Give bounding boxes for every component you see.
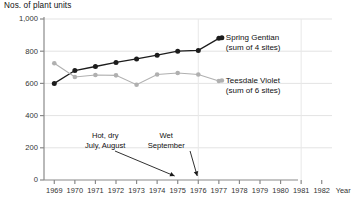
data-point-0-1971 bbox=[93, 64, 98, 69]
data-point-1-1971 bbox=[93, 73, 98, 78]
series-line-1 bbox=[54, 63, 219, 84]
legend-spring-gentian-sublabel: (sum of 4 sites) bbox=[226, 43, 281, 52]
annotation-wet-september: Wet September bbox=[148, 131, 185, 150]
x-axis-title: Year bbox=[336, 186, 351, 195]
annotation-wet-september-line1: Wet bbox=[160, 131, 173, 140]
data-point-1-1974 bbox=[155, 72, 160, 77]
legend-spring-gentian-name: Spring Gentian bbox=[226, 33, 279, 42]
data-point-1-1975 bbox=[175, 71, 180, 76]
legend-teesdale-violet-sublabel: (sum of 6 sites) bbox=[226, 86, 281, 95]
data-point-1-1973 bbox=[134, 82, 139, 87]
annotation-arrow-hot-dry bbox=[115, 151, 175, 176]
data-point-0-1976 bbox=[196, 48, 201, 53]
annotation-hot-dry: Hot, dry July, August bbox=[85, 131, 125, 150]
y-tick-label-1000: 1,000 bbox=[8, 14, 38, 23]
data-point-1-1976 bbox=[196, 72, 201, 77]
legend-teesdale-violet: Teesdale Violet (sum of 6 sites) bbox=[226, 76, 281, 96]
y-tick-label-0: 0 bbox=[8, 175, 38, 184]
data-point-0-1975 bbox=[175, 49, 180, 54]
x-tick-label-1982: 1982 bbox=[310, 186, 334, 195]
data-point-0-1973 bbox=[134, 56, 139, 61]
data-point-0-1970 bbox=[72, 68, 77, 73]
annotation-arrow-wet-september-head bbox=[194, 171, 198, 176]
legend-marker-spring-gentian bbox=[219, 35, 224, 40]
y-tick-label-200: 200 bbox=[8, 143, 38, 152]
data-point-1-1972 bbox=[114, 73, 119, 78]
y-tick-label-400: 400 bbox=[8, 111, 38, 120]
annotation-hot-dry-line2: July, August bbox=[85, 141, 125, 150]
legend-teesdale-violet-name: Teesdale Violet bbox=[226, 76, 280, 85]
annotation-wet-september-line2: September bbox=[148, 141, 185, 150]
data-point-0-1974 bbox=[155, 53, 160, 58]
annotation-hot-dry-line1: Hot, dry bbox=[92, 131, 119, 140]
y-tick-label-800: 800 bbox=[8, 47, 38, 56]
data-point-1-1970 bbox=[73, 75, 78, 80]
data-point-0-1969 bbox=[52, 81, 57, 86]
y-tick-label-600: 600 bbox=[8, 79, 38, 88]
legend-spring-gentian: Spring Gentian (sum of 4 sites) bbox=[226, 33, 281, 53]
data-point-1-1969 bbox=[52, 61, 57, 66]
data-point-0-1972 bbox=[114, 60, 119, 65]
legend-leader-teesdale-violet bbox=[219, 80, 222, 81]
